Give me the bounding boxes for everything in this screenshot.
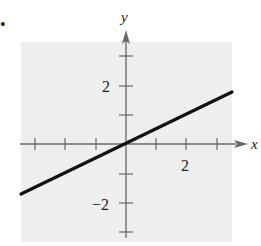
item-bullet: •: [0, 16, 6, 33]
coordinate-plot: • x y 2 2 −2: [0, 0, 261, 246]
y-axis-label: y: [119, 9, 128, 25]
x-axis-label: x: [250, 136, 258, 152]
y-tick-label-neg2: −2: [92, 196, 109, 213]
y-tick-label-2: 2: [102, 78, 110, 95]
x-axis-arrow-icon: [234, 140, 248, 148]
x-tick-label-2: 2: [181, 157, 189, 174]
